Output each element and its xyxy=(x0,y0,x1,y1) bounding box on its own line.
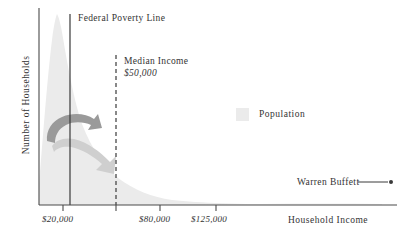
x-axis-ticks xyxy=(63,205,216,211)
legend-swatch-population xyxy=(236,108,249,121)
x-tick-label-1: $80,000 xyxy=(139,214,170,224)
median-income-label: Median Income xyxy=(124,56,188,67)
warren-buffett-marker xyxy=(358,180,393,184)
x-axis-title: Household Income xyxy=(288,215,368,226)
federal-poverty-line-label: Federal Poverty Line xyxy=(78,13,165,24)
y-axis-title: Number of Households xyxy=(21,35,31,175)
household-income-distribution-chart: Federal Poverty Line Median Income $50,0… xyxy=(0,0,413,237)
warren-buffett-label: Warren Buffett xyxy=(297,177,359,188)
x-tick-label-2: $125,000 xyxy=(191,214,227,224)
chart-canvas xyxy=(0,0,413,237)
x-tick-label-0: $20,000 xyxy=(42,214,73,224)
median-income-value: $50,000 xyxy=(124,68,157,79)
legend-label-population: Population xyxy=(259,109,305,120)
